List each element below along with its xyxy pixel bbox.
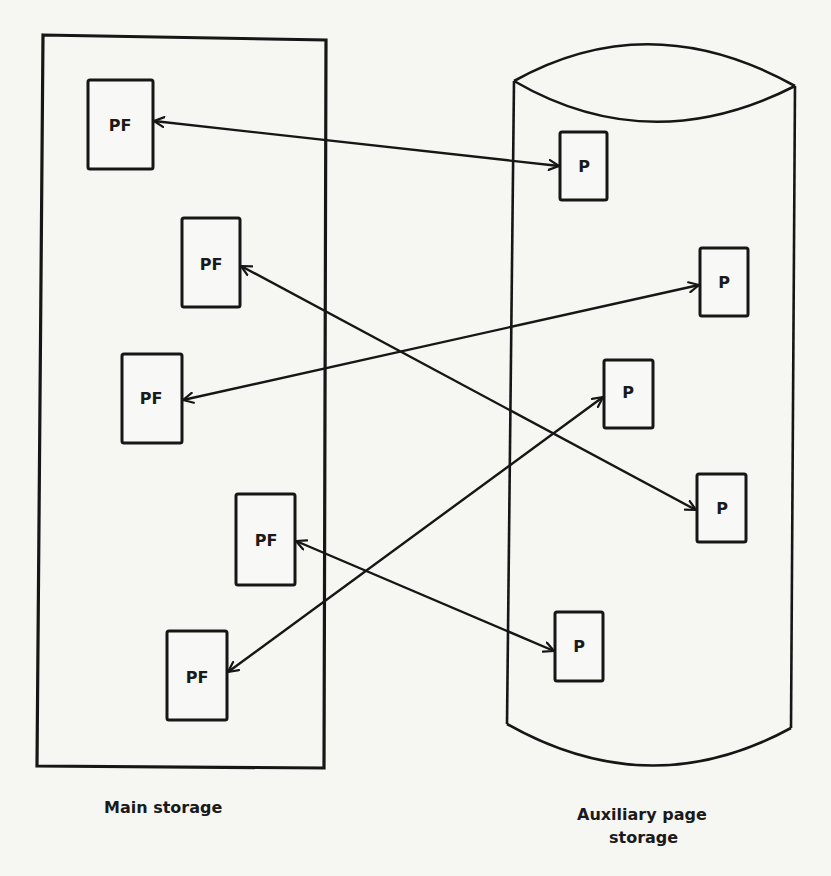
page-label: P (716, 499, 728, 518)
paging-diagram: PF PF PF PF PF P P P P P Main storage Au… (0, 0, 831, 876)
page-label: P (622, 383, 634, 402)
cylinder-top-ellipse-lower (514, 81, 795, 122)
arrow-pf1-p1 (154, 121, 559, 166)
cylinder-bottom-curve (507, 724, 791, 766)
arrow-pf4-p5 (296, 541, 554, 651)
page-p1: P (560, 132, 607, 200)
page-frame-label: PF (186, 668, 209, 687)
page-p3: P (604, 360, 653, 428)
main-storage-caption: Main storage (104, 798, 222, 817)
page-label: P (573, 637, 585, 656)
page-frame-label: PF (140, 389, 163, 408)
auxiliary-storage-caption-line1: Auxiliary page (577, 805, 707, 824)
page-frame-label: PF (255, 531, 278, 550)
page-frame-pf2: PF (182, 218, 240, 307)
cylinder-top-ellipse-upper (514, 44, 795, 86)
cylinder-left-side (507, 81, 514, 724)
cylinder-right-side (791, 86, 795, 728)
page-p2: P (700, 248, 748, 316)
page-label: P (718, 273, 730, 292)
page-frame-pf4: PF (236, 494, 295, 585)
page-p5: P (555, 612, 603, 681)
page-frame-pf1: PF (88, 80, 153, 169)
page-frame-pf3: PF (122, 354, 182, 443)
page-frame-label: PF (109, 116, 132, 135)
page-frame-label: PF (200, 255, 223, 274)
page-p4: P (697, 474, 746, 542)
page-label: P (578, 157, 590, 176)
auxiliary-storage-caption-line2: storage (609, 828, 678, 847)
page-frame-pf5: PF (167, 631, 227, 720)
